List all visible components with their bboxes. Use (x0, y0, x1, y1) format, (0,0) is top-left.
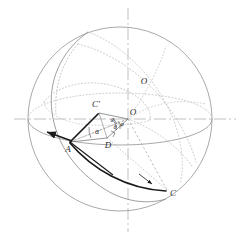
figure-root: A C C' D O O α θ φ θ (0, 0, 241, 238)
great-circle-tilted-3 (128, 46, 206, 166)
label-point-C: C (170, 188, 177, 198)
sphere-diagram: A C C' D O O α θ φ θ (0, 0, 241, 238)
label-point-O-center: O (130, 107, 137, 117)
great-circle-1-front (51, 32, 166, 202)
great-circle-2-front (56, 44, 78, 114)
label-angle-theta-2: θ (110, 116, 114, 123)
radial-D-to-C (107, 138, 167, 190)
label-point-A: A (64, 144, 71, 154)
great-circle-3-path-b (128, 102, 206, 119)
arrow-along-arc (139, 174, 152, 184)
great-circle-tilted-2 (56, 44, 196, 162)
label-point-O-upper: O (141, 76, 148, 86)
angle-arc-alpha (89, 127, 91, 138)
label-point-D: D (104, 140, 112, 150)
label-angle-phi: φ (120, 120, 124, 127)
thick-edge-A-Cprime (70, 114, 98, 142)
label-angle-alpha: α (95, 127, 100, 136)
radial-O-to-C (128, 119, 167, 190)
equator-back (28, 93, 212, 119)
label-point-C-prime: C' (92, 99, 101, 109)
